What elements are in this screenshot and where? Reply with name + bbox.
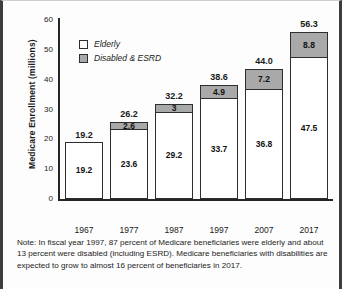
legend-label-disabled-esrd: Disabled & ESRD — [94, 53, 161, 63]
y-axis-tick-10: 10 — [44, 165, 53, 173]
bar-segment-label-elderly: 36.8 — [246, 140, 282, 149]
bar-segment-label-disabled-esrd: 7.2 — [258, 75, 270, 84]
bar-group[interactable]: 56.38.847.5 — [290, 32, 328, 199]
chart-legend: Elderly Disabled & ESRD — [79, 39, 161, 67]
y-axis-tick-50: 50 — [44, 46, 53, 54]
legend-item-elderly: Elderly — [79, 39, 161, 49]
bar-total-label: 19.2 — [65, 131, 103, 140]
x-axis-tick-2007: 2007 — [245, 225, 283, 235]
bar-segment-label-elderly: 19.2 — [66, 166, 102, 175]
x-axis-tick-1987: 1987 — [155, 225, 193, 235]
legend-swatch-disabled-esrd — [79, 54, 88, 63]
x-axis-tick-1997: 1997 — [200, 225, 238, 235]
bar-group[interactable]: 19.219.2 — [65, 143, 103, 199]
x-axis-line — [58, 199, 333, 201]
bar-segment-label-disabled-esrd: 4.9 — [213, 88, 225, 97]
legend-label-elderly: Elderly — [94, 39, 120, 49]
y-axis-tick-60: 60 — [44, 16, 53, 24]
bar-segment-disabled-esrd[interactable]: 7.2 — [245, 69, 283, 90]
bar-total-label: 56.3 — [290, 20, 328, 29]
y-axis-tick-20: 20 — [44, 135, 53, 143]
figure-note: Note: In fiscal year 1997, 87 percent of… — [17, 237, 333, 271]
x-axis-tick-2017: 2017 — [290, 225, 328, 235]
x-axis-tick-1967: 1967 — [65, 225, 103, 235]
bar-segment-elderly[interactable]: 33.7 — [200, 98, 238, 199]
y-axis-tick-30: 30 — [44, 106, 53, 114]
bar-total-label: 32.2 — [155, 92, 193, 101]
bar-group[interactable]: 44.07.236.8 — [245, 69, 283, 199]
bar-group[interactable]: 38.64.933.7 — [200, 85, 238, 199]
bar-segment-elderly[interactable]: 19.2 — [65, 142, 103, 199]
bar-segment-label-disabled-esrd: 8.8 — [303, 41, 315, 50]
bar-total-label: 44.0 — [245, 57, 283, 66]
bar-total-label: 38.6 — [200, 73, 238, 82]
bar-group[interactable]: 26.22.623.6 — [110, 122, 148, 199]
bar-segment-disabled-esrd[interactable]: 8.8 — [290, 32, 328, 58]
legend-item-disabled-esrd: Disabled & ESRD — [79, 53, 161, 63]
bar-segment-label-elderly: 23.6 — [111, 159, 147, 168]
bar-total-label: 26.2 — [110, 110, 148, 119]
bar-group[interactable]: 32.2329.2 — [155, 104, 193, 199]
bar-segment-label-elderly: 47.5 — [291, 124, 327, 133]
bar-segment-elderly[interactable]: 36.8 — [245, 89, 283, 199]
bar-segment-elderly[interactable]: 47.5 — [290, 57, 328, 199]
stacked-bar-chart: Medicare Enrollment (millions) 010203040… — [3, 1, 342, 216]
figure-frame: Medicare Enrollment (millions) 010203040… — [0, 0, 342, 289]
bar-segment-elderly[interactable]: 29.2 — [155, 112, 193, 199]
bar-segment-elderly[interactable]: 23.6 — [110, 129, 148, 199]
x-axis-tick-1977: 1977 — [110, 225, 148, 235]
bar-segment-label-elderly: 29.2 — [156, 151, 192, 160]
y-axis-title: Medicare Enrollment (millions) — [27, 14, 37, 194]
y-axis-tick-0: 0 — [49, 195, 53, 203]
y-axis-tick-40: 40 — [44, 76, 53, 84]
legend-swatch-elderly — [79, 40, 88, 49]
bar-segment-label-elderly: 33.7 — [201, 144, 237, 153]
